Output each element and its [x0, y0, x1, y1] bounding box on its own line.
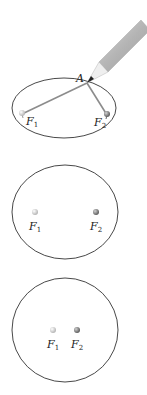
panel-ellipse: F1 F2	[12, 165, 118, 259]
focus-pin-f1	[19, 110, 25, 118]
focus-f1	[32, 209, 38, 215]
focus-f1	[50, 327, 56, 333]
ellipse-outline	[12, 165, 118, 259]
panel-near-circle: F1 F2	[12, 278, 118, 382]
focus-pin-f2	[104, 111, 110, 119]
ellipse-diagram: A F1 F2 F1 F2 F1 F2	[0, 0, 147, 395]
ellipse-outline	[12, 78, 116, 138]
string-to-f2	[87, 83, 107, 115]
pencil-icon	[87, 20, 147, 83]
focus-label-f1: F1	[46, 338, 59, 352]
point-a-label: A	[75, 72, 84, 85]
focus-f2	[93, 209, 99, 215]
focus-label-f2: F2	[70, 338, 83, 352]
panel-drawing-ellipse: A F1 F2	[12, 20, 147, 138]
focus-label-f2: F2	[93, 116, 106, 130]
focus-label-f2: F2	[89, 220, 102, 234]
string-to-f1	[22, 83, 87, 114]
focus-label-f1: F1	[25, 115, 38, 129]
ellipse-outline	[12, 278, 118, 382]
focus-f2	[74, 327, 80, 333]
focus-label-f1: F1	[28, 220, 41, 234]
